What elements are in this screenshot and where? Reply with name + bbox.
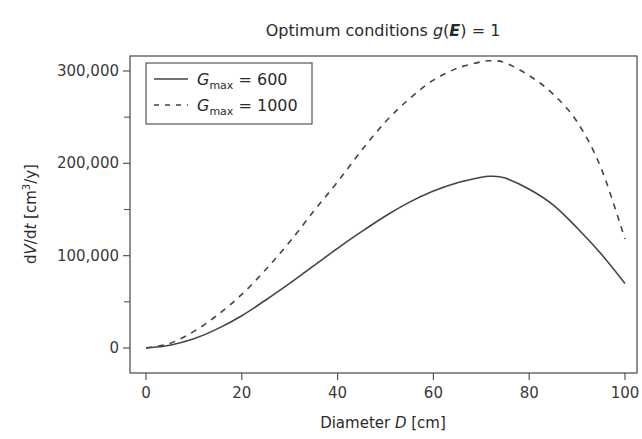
y-tick-label: 300,000 [57,62,119,80]
x-axis-title: Diameter D [cm] [320,414,446,432]
y-axis: 0100,000200,000300,000 [57,62,130,357]
x-tick-label: 80 [520,384,539,402]
y-axis-title: dV/dt [cm3/y] [21,164,40,264]
series-gmax-600-line [146,176,625,348]
x-tick-label: 0 [141,384,151,402]
x-tick-label: 100 [611,384,640,402]
x-tick-label: 40 [328,384,347,402]
x-tick-label: 60 [424,384,443,402]
chart-title: Optimum conditions g(E) = 1 [266,21,501,40]
y-tick-label: 100,000 [57,247,119,265]
legend: Gmax = 600 Gmax = 1000 [146,63,312,124]
y-tick-label: 200,000 [57,154,119,172]
y-tick-label: 0 [109,339,119,357]
x-tick-label: 20 [232,384,251,402]
chart: Optimum conditions g(E) = 1 0100,000200,… [0,0,642,439]
x-axis: 020406080100 [141,373,639,402]
